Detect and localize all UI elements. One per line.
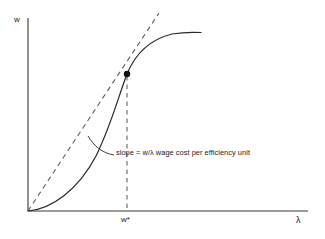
wstar-tick-label: w*	[121, 216, 130, 224]
effort-curve-path	[28, 32, 201, 211]
tangent-ray-line	[28, 13, 159, 211]
slope-annotation-text: slope = w/λ wage cost per efficiency uni…	[116, 149, 250, 156]
efficiency-wage-figure: w λ w* slope = w/λ wage cost per efficie…	[0, 0, 325, 239]
chart-canvas	[0, 0, 325, 239]
tangency-point-marker	[124, 71, 130, 77]
x-axis-label: λ	[296, 216, 301, 225]
y-axis-label: w	[14, 16, 20, 24]
